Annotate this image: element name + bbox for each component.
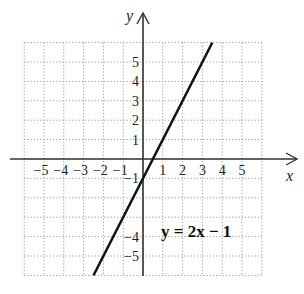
x-tick-label: 4	[219, 163, 226, 178]
y-axis-label: y	[124, 7, 134, 25]
y-tick-label: −5	[124, 249, 139, 264]
x-tick-label: −5	[34, 163, 49, 178]
line-graph: −5−4−3−2−11234554321−1−4−5 x y y = 2x − …	[0, 0, 304, 294]
y-tick-label: 3	[132, 94, 139, 109]
x-tick-label: −4	[53, 163, 68, 178]
x-tick-label: 3	[199, 163, 206, 178]
y-tick-label: −4	[124, 230, 139, 245]
y-tick-label: 2	[132, 113, 139, 128]
x-tick-label: −2	[93, 163, 108, 178]
x-axis-label: x	[285, 167, 293, 184]
x-tick-label: 1	[159, 163, 166, 178]
x-tick-label: 2	[179, 163, 186, 178]
y-tick-label: 4	[132, 74, 139, 89]
y-tick-label: −1	[124, 171, 139, 186]
y-tick-label: 1	[132, 133, 139, 148]
equation-label: y = 2x − 1	[161, 222, 231, 241]
x-tick-label: 5	[239, 163, 246, 178]
x-tick-label: −3	[73, 163, 88, 178]
y-tick-label: 5	[132, 55, 139, 70]
